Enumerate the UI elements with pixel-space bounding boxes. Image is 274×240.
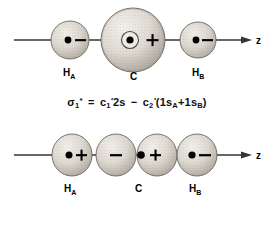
nucleus-hb: [193, 37, 200, 44]
eq1-fn2-close: ): [203, 96, 207, 108]
orbital-ha-1s: [52, 134, 92, 176]
orbital-c-2s: [101, 8, 165, 72]
orbital-hb-1s: [180, 22, 216, 58]
z-axis-label: z: [256, 150, 261, 161]
phase-sign-c-minus: [110, 154, 122, 156]
panel-sigma2-star: z HA C HB σ2* = c3′2pz − c4′(−1sA+1sB): [0, 120, 274, 240]
orbital-c-2pz-left-lobe: [96, 134, 136, 176]
orbital-hb-1s: [177, 134, 217, 176]
diagram-sigma1-star: z HA C HB: [0, 0, 274, 85]
eq1-lhs-symbol: σ: [67, 96, 75, 108]
eq1-lhs-sup: *: [79, 96, 82, 105]
eq1-equals: =: [86, 96, 97, 108]
nucleus-ha: [65, 37, 72, 44]
orbital-c-2pz-right-lobe: [137, 134, 177, 176]
molecular-orbital-figure: z HA C HB σ1* = c1′2s − c2′(1sA+1sB): [0, 0, 274, 240]
atom-label-hb: HB: [189, 183, 201, 196]
z-axis-arrowhead: [241, 36, 252, 43]
atom-label-ha: HA: [63, 67, 75, 80]
panel-sigma1-star: z HA C HB σ1* = c1′2s − c2′(1sA+1sB): [0, 0, 274, 120]
phase-sign-hb-minus: [199, 154, 211, 156]
eq1-operator: −: [129, 96, 140, 108]
atom-label-c: C: [130, 71, 137, 82]
phase-sign-hb-minus: [202, 39, 213, 41]
phase-sign-ha-minus: [75, 39, 86, 41]
z-axis-arrowhead: [241, 151, 252, 158]
equation-sigma1-star: σ1* = c1′2s − c2′(1sA+1sB): [0, 96, 274, 110]
nucleus-ha: [66, 152, 73, 159]
eq1-fn2-mid: +1s: [178, 96, 197, 108]
atom-label-hb: HB: [192, 67, 204, 80]
z-axis-label: z: [256, 35, 261, 46]
nucleus-c: [126, 36, 133, 43]
atom-label-c: C: [135, 183, 142, 194]
atom-label-ha: HA: [64, 183, 76, 196]
diagram-sigma2-star: z HA C HB: [0, 120, 274, 205]
nucleus-hb: [188, 151, 195, 158]
eq1-fn2-open: (1s: [156, 96, 173, 108]
orbital-ha-1s: [51, 21, 89, 59]
nucleus-c: [137, 151, 145, 159]
eq1-fn1: 2s: [113, 96, 126, 108]
